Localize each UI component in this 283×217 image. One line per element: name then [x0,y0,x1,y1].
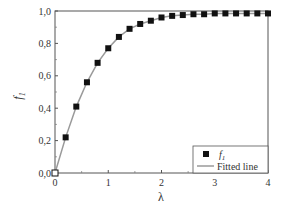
x-tick-label: 0 [53,177,58,188]
data-point [95,60,101,66]
y-tick-label: 0,4 [39,103,52,114]
y-tick-label: 1,0 [39,6,52,17]
svg-text:f1: f1 [11,92,27,99]
data-point [190,11,196,17]
data-point [116,34,122,40]
x-tick-label: 4 [266,177,271,188]
y-tick-label: 0,2 [39,135,52,146]
data-point [169,13,175,19]
data-point [254,10,260,16]
data-point [212,10,218,16]
legend-marker-square-icon [203,151,209,157]
data-point [105,45,111,51]
data-point [148,18,154,24]
data-point [265,10,271,16]
y-axis-label: f1 [11,92,27,99]
data-point [222,10,228,16]
data-point [244,10,250,16]
data-point [127,26,133,32]
data-point [159,14,165,20]
x-tick-label: 2 [159,177,164,188]
data-point [84,79,90,85]
chart: 0,00,20,40,60,81,0 01234 λ f1 f1 Fitted … [0,0,283,217]
data-point [137,21,143,27]
y-tick-label: 0,6 [39,70,52,81]
y-tick-label: 0,0 [39,168,52,179]
y-tick-label: 0,8 [39,38,52,49]
x-tick-label: 3 [212,177,217,188]
legend: f1 Fitted line [193,146,268,173]
data-point [73,104,79,110]
legend-label-fitted-line: Fitted line [217,161,258,172]
data-point [63,134,69,140]
data-point [201,11,207,17]
x-axis-label: λ [158,190,164,204]
data-point [233,10,239,16]
data-point [52,170,58,176]
data-point [180,12,186,18]
x-tick-label: 1 [106,177,111,188]
